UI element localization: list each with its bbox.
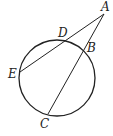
label-e: E bbox=[7, 67, 17, 81]
label-d: D bbox=[57, 26, 68, 40]
label-c: C bbox=[40, 117, 49, 131]
secant-a-c bbox=[48, 14, 104, 114]
label-a: A bbox=[100, 0, 110, 14]
label-b: B bbox=[86, 41, 96, 55]
secant-diagram: A B C D E bbox=[0, 0, 113, 136]
